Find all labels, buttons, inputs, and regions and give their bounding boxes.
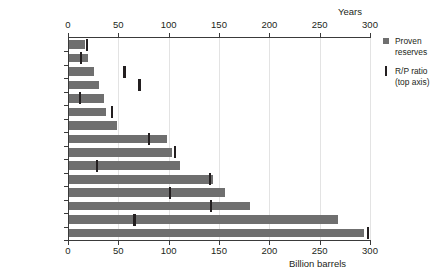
bottom-tick-label: 250 xyxy=(300,245,340,256)
category-tick-mark xyxy=(64,132,68,133)
chart-row: Canada xyxy=(68,200,370,213)
marker-rp-ratio xyxy=(111,106,113,118)
category-tick-mark xyxy=(64,119,68,120)
chart-row: Kuwait xyxy=(68,146,370,159)
marker-rp-ratio xyxy=(79,92,81,104)
bottom-tick-label: 200 xyxy=(249,245,289,256)
top-tick-label: 300 xyxy=(350,19,390,30)
plot-area: BrazilChinaQatarKazakhstanUnited StatesN… xyxy=(68,38,370,240)
marker-rp-ratio xyxy=(138,79,140,91)
marker-rp-ratio xyxy=(210,200,212,212)
top-tick-label: 0 xyxy=(48,19,88,30)
legend: Proven reserves R/P ratio (top axis) xyxy=(383,36,442,96)
category-tick-mark xyxy=(64,173,68,174)
bar-proven-reserves xyxy=(69,40,85,49)
chart-row: Brazil xyxy=(68,38,370,51)
bar-proven-reserves xyxy=(69,81,99,90)
chart-container: Years Billion barrels 050100150200250300… xyxy=(0,0,442,271)
chart-row: Venezuela xyxy=(68,227,370,240)
bar-proven-reserves xyxy=(69,121,117,130)
top-tick-mark xyxy=(118,33,119,37)
top-tick-label: 200 xyxy=(249,19,289,30)
chart-row: Iran xyxy=(68,186,370,199)
marker-rp-ratio xyxy=(133,214,135,226)
chart-row: Iraq xyxy=(68,173,370,186)
chart-row: Qatar xyxy=(68,65,370,78)
category-tick-mark xyxy=(64,146,68,147)
category-tick-mark xyxy=(64,78,68,79)
chart-row: UAE xyxy=(68,132,370,145)
marker-rp-ratio xyxy=(209,173,211,185)
category-tick-mark xyxy=(64,213,68,214)
bar-swatch-icon xyxy=(383,38,389,44)
category-tick-mark xyxy=(64,159,68,160)
marker-rp-ratio xyxy=(169,187,171,199)
chart-row: Russia xyxy=(68,159,370,172)
chart-row: United States xyxy=(68,92,370,105)
legend-label-line1: R/P ratio xyxy=(395,66,442,77)
chart-row: Libya xyxy=(68,119,370,132)
bar-proven-reserves xyxy=(69,54,88,63)
legend-label-line1: Proven xyxy=(395,36,442,47)
marker-rp-ratio xyxy=(367,227,369,239)
tick-swatch-icon xyxy=(385,66,387,76)
top-tick-mark xyxy=(320,33,321,37)
category-tick-mark xyxy=(64,92,68,93)
bar-proven-reserves xyxy=(69,108,106,117)
marker-rp-ratio xyxy=(96,160,98,172)
category-tick-mark xyxy=(64,186,68,187)
bottom-axis-title: Billion barrels xyxy=(289,258,346,269)
marker-rp-ratio xyxy=(174,146,176,158)
top-tick-mark xyxy=(68,33,69,37)
bar-proven-reserves xyxy=(69,215,338,224)
bottom-tick-label: 50 xyxy=(98,245,138,256)
marker-rp-ratio xyxy=(86,39,88,51)
bar-proven-reserves xyxy=(69,188,225,197)
top-tick-mark xyxy=(370,33,371,37)
category-tick-mark xyxy=(64,65,68,66)
bottom-tick-label: 100 xyxy=(149,245,189,256)
legend-entry-rp-ratio: R/P ratio (top axis) xyxy=(383,66,442,87)
bottom-tick-label: 0 xyxy=(48,245,88,256)
chart-row: Saudi Arabia xyxy=(68,213,370,226)
bar-proven-reserves xyxy=(69,161,180,170)
marker-rp-ratio xyxy=(80,52,82,64)
chart-row: China xyxy=(68,51,370,64)
top-tick-mark xyxy=(269,33,270,37)
chart-row: Nigeria xyxy=(68,105,370,118)
bar-proven-reserves xyxy=(69,148,172,157)
category-tick-mark xyxy=(64,51,68,52)
top-tick-mark xyxy=(169,33,170,37)
legend-entry-proven-reserves: Proven reserves xyxy=(383,36,442,57)
bar-proven-reserves xyxy=(69,94,104,103)
gridline xyxy=(370,38,371,240)
top-tick-label: 100 xyxy=(149,19,189,30)
bar-proven-reserves xyxy=(69,67,94,76)
bar-proven-reserves xyxy=(69,202,250,211)
marker-rp-ratio xyxy=(148,133,150,145)
top-tick-label: 250 xyxy=(300,19,340,30)
bottom-tick-label: 300 xyxy=(350,245,390,256)
category-tick-mark xyxy=(64,200,68,201)
top-tick-mark xyxy=(219,33,220,37)
legend-label-line2: (top axis) xyxy=(395,77,442,88)
top-tick-label: 150 xyxy=(199,19,239,30)
bar-proven-reserves xyxy=(69,135,167,144)
chart-row: Kazakhstan xyxy=(68,78,370,91)
bar-proven-reserves xyxy=(69,175,213,184)
bar-proven-reserves xyxy=(69,229,364,238)
category-tick-mark xyxy=(64,240,68,241)
category-tick-mark xyxy=(64,227,68,228)
legend-label-line2: reserves xyxy=(395,47,442,58)
category-tick-mark xyxy=(64,105,68,106)
top-tick-label: 50 xyxy=(98,19,138,30)
top-axis-title: Years xyxy=(338,6,362,17)
marker-rp-ratio xyxy=(123,66,125,78)
bottom-tick-label: 150 xyxy=(199,245,239,256)
